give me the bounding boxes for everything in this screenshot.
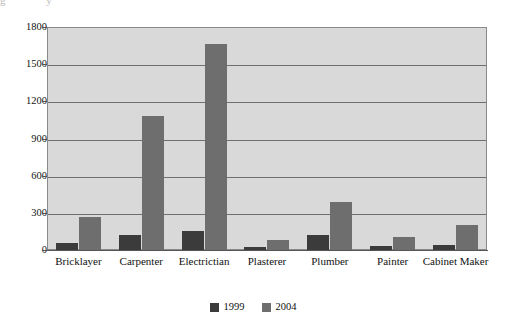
bar-painter-1999 xyxy=(370,246,392,250)
bar-plasterer-2004 xyxy=(267,240,289,250)
chart-legend: 19992004 xyxy=(0,302,506,312)
bars-layer xyxy=(47,27,487,250)
y-tick-label-1200: 1200 xyxy=(5,96,47,106)
bar-group xyxy=(110,27,173,250)
legend-label-2004: 2004 xyxy=(276,302,297,312)
category-label-cabinet-maker: Cabinet Maker xyxy=(414,255,497,268)
bar-carpenter-2004 xyxy=(142,116,164,250)
y-tick-label-0: 0 xyxy=(5,245,47,255)
bar-electrictian-1999 xyxy=(182,231,204,250)
x-axis-baseline xyxy=(47,250,488,251)
y-tick-label-1800: 1800 xyxy=(5,22,47,32)
bar-group xyxy=(298,27,361,250)
legend-label-1999: 1999 xyxy=(224,302,245,312)
bar-electrictian-2004 xyxy=(205,44,227,250)
legend-swatch-1999 xyxy=(210,303,219,312)
bar-plumber-1999 xyxy=(307,235,329,250)
legend-item-2004: 2004 xyxy=(262,302,297,312)
bar-carpenter-1999 xyxy=(119,235,141,250)
bar-group xyxy=(47,27,110,250)
bar-painter-2004 xyxy=(393,237,415,250)
bar-cabinet-maker-2004 xyxy=(456,225,478,250)
bar-chart: g y 0300600900120015001800 BricklayerCar… xyxy=(0,0,506,318)
y-axis: 0300600900120015001800 xyxy=(0,0,47,318)
x-axis-category-labels: BricklayerCarpenterElectrictianPlasterer… xyxy=(47,255,487,271)
y-tick-label-600: 600 xyxy=(5,171,47,181)
bar-plasterer-1999 xyxy=(244,247,266,250)
legend-item-1999: 1999 xyxy=(210,302,245,312)
bar-bricklayer-2004 xyxy=(79,217,101,250)
legend-swatch-2004 xyxy=(262,303,271,312)
bar-plumber-2004 xyxy=(330,202,352,250)
bar-group xyxy=(361,27,424,250)
header-fragment-1: y xyxy=(46,0,54,6)
bar-group xyxy=(173,27,236,250)
bar-cabinet-maker-1999 xyxy=(433,245,455,250)
cut-off-header-text: g y xyxy=(0,0,506,6)
y-tick-label-300: 300 xyxy=(5,208,47,218)
bar-group xyxy=(236,27,299,250)
bar-group xyxy=(424,27,487,250)
y-tick-label-900: 900 xyxy=(5,134,47,144)
bar-bricklayer-1999 xyxy=(56,243,78,250)
y-tick-label-1500: 1500 xyxy=(5,59,47,69)
